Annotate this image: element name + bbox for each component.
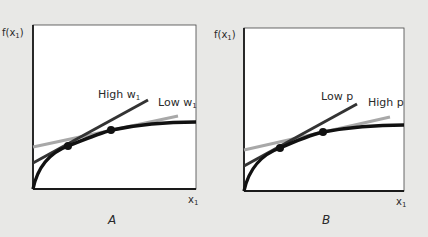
panel-caption-b: B (322, 213, 330, 227)
panel-caption-a: A (107, 213, 116, 227)
plot-area-b (244, 28, 404, 191)
optimum-point-low-w1 (107, 126, 115, 134)
low-w1-label: Low w1 (158, 96, 197, 110)
y-axis-label-b: f(x1) (214, 29, 236, 42)
x-axis-label-a: x1 (188, 194, 198, 207)
panel-b: f(x1) x1 Low p High p B (214, 28, 406, 227)
high-p-label: High p (368, 96, 404, 109)
x-axis-label-b: x1 (396, 196, 406, 209)
low-p-label: Low p (321, 90, 353, 103)
y-axis-label-a: f(x1) (2, 27, 24, 40)
high-w1-label: High w1 (98, 88, 140, 102)
optimum-point-high-p (319, 128, 327, 136)
diagram-canvas: f(x1) x1 High w1 Low w1 A f(x1) x1 Low p… (0, 0, 428, 237)
panel-a: f(x1) x1 High w1 Low w1 A (2, 25, 198, 227)
optimum-point-low-p (276, 144, 284, 152)
optimum-point-high-w1 (64, 142, 72, 150)
